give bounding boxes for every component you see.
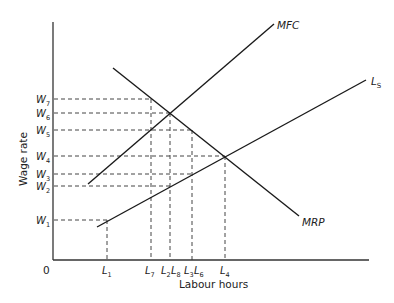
x-axis-label: Labour hours xyxy=(179,278,248,290)
labour-guide-lines xyxy=(107,99,225,260)
curves xyxy=(88,24,366,227)
labour-label-l3: L3 xyxy=(184,265,194,279)
origin-label: 0 xyxy=(43,264,50,276)
wage-label-w5: W5 xyxy=(36,125,50,139)
wage-guide-lines xyxy=(54,99,225,220)
labour-labels: L1 L7 L2 L8 L3 L6 L4 xyxy=(102,265,230,279)
labour-supply-curve xyxy=(97,80,366,227)
labour-label-l1: L1 xyxy=(102,265,112,279)
labour-label-l2: L2 xyxy=(161,265,171,279)
labour-label-l4: L4 xyxy=(220,265,230,279)
wage-labels: W7 W6 W5 W4 W3 W2 W1 xyxy=(36,94,50,229)
wage-label-w6: W6 xyxy=(36,108,50,122)
wage-label-w2: W2 xyxy=(36,181,50,195)
mrp-curve xyxy=(113,68,299,216)
mfc-label: MFC xyxy=(277,19,300,31)
mrp-label: MRP xyxy=(302,216,325,228)
labour-label-l8: L8 xyxy=(171,265,181,279)
labour-label-l7: L7 xyxy=(145,265,155,279)
labour-supply-label: LS xyxy=(371,75,382,90)
y-axis-label: Wage rate xyxy=(17,132,29,186)
mfc-curve xyxy=(88,24,274,184)
labour-market-diagram: MFC LS MRP W7 W6 W5 W4 W3 W2 W1 L1 L7 L2… xyxy=(0,0,394,303)
wage-label-w1: W1 xyxy=(36,215,50,229)
wage-label-w4: W4 xyxy=(36,151,50,165)
wage-label-w7: W7 xyxy=(36,94,50,108)
labour-label-l6: L6 xyxy=(194,265,204,279)
